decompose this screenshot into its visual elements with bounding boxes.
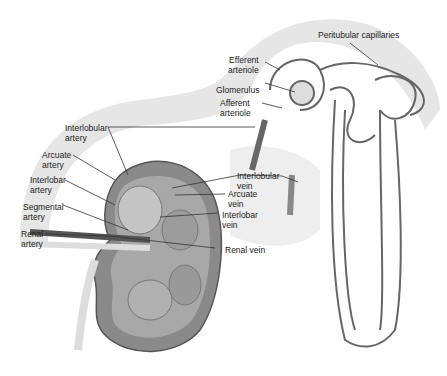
kidney-diagram [0, 0, 447, 376]
label-segmental-artery: Segmental artery [23, 203, 64, 222]
label-arcuate-vein: Arcuate vein [228, 190, 257, 209]
label-renal-artery: Renal artery [21, 230, 43, 249]
label-glomerulus: Glomerulus [216, 86, 259, 96]
label-interlobular-artery: Interlobular artery [65, 124, 108, 143]
label-arcuate-artery: Arcuate artery [42, 151, 71, 170]
label-peritubular-capillaries: Peritubular capillaries [318, 31, 399, 41]
label-efferent-arteriole: Efferent arteriole [228, 56, 259, 75]
label-interlobar-vein: Interlobar vein [222, 211, 258, 230]
label-interlobar-artery: Interlobar artery [30, 176, 66, 195]
label-renal-vein: Renal vein [225, 246, 265, 256]
label-afferent-arteriole: Afferent arteriole [220, 99, 251, 118]
